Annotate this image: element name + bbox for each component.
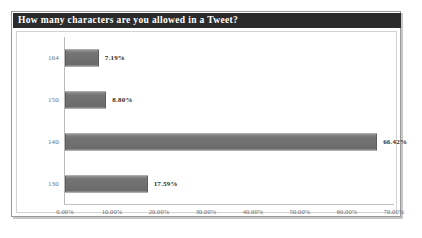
category-label: 140 — [25, 138, 59, 146]
plot-frame: 164 7.19% 150 8.80% 140 66.42% 130 17.59… — [16, 31, 397, 213]
bar-row: 150 8.80% — [17, 79, 398, 120]
category-label: 150 — [25, 96, 59, 104]
x-tick-label: 20.00% — [149, 208, 170, 215]
x-tick-label: 0.00% — [56, 208, 73, 215]
bar-value-label: 66.42% — [383, 138, 407, 146]
bar[interactable] — [65, 175, 148, 192]
category-label: 164 — [25, 54, 59, 62]
bar-value-label: 8.80% — [112, 96, 132, 104]
chart-card: How many characters are you allowed in a… — [11, 11, 401, 217]
bar[interactable] — [65, 133, 377, 150]
bar-value-label: 7.19% — [105, 54, 125, 62]
x-tick-label: 50.00% — [290, 208, 311, 215]
bar[interactable] — [65, 49, 99, 66]
bar[interactable] — [65, 91, 106, 108]
bar-row: 130 17.59% — [17, 163, 398, 204]
plot-area: 164 7.19% 150 8.80% 140 66.42% 130 17.59… — [17, 32, 398, 214]
x-tick-label: 60.00% — [337, 208, 358, 215]
category-axis-line — [64, 204, 394, 205]
category-label: 130 — [25, 180, 59, 188]
x-tick-label: 70.00% — [384, 208, 405, 215]
bar-row: 140 66.42% — [17, 121, 398, 162]
bar-value-label: 17.59% — [154, 180, 178, 188]
bar-row: 164 7.19% — [17, 37, 398, 78]
x-tick-label: 10.00% — [102, 208, 123, 215]
x-tick-label: 40.00% — [243, 208, 264, 215]
x-tick-label: 30.00% — [196, 208, 217, 215]
chart-title: How many characters are you allowed in a… — [13, 13, 401, 28]
